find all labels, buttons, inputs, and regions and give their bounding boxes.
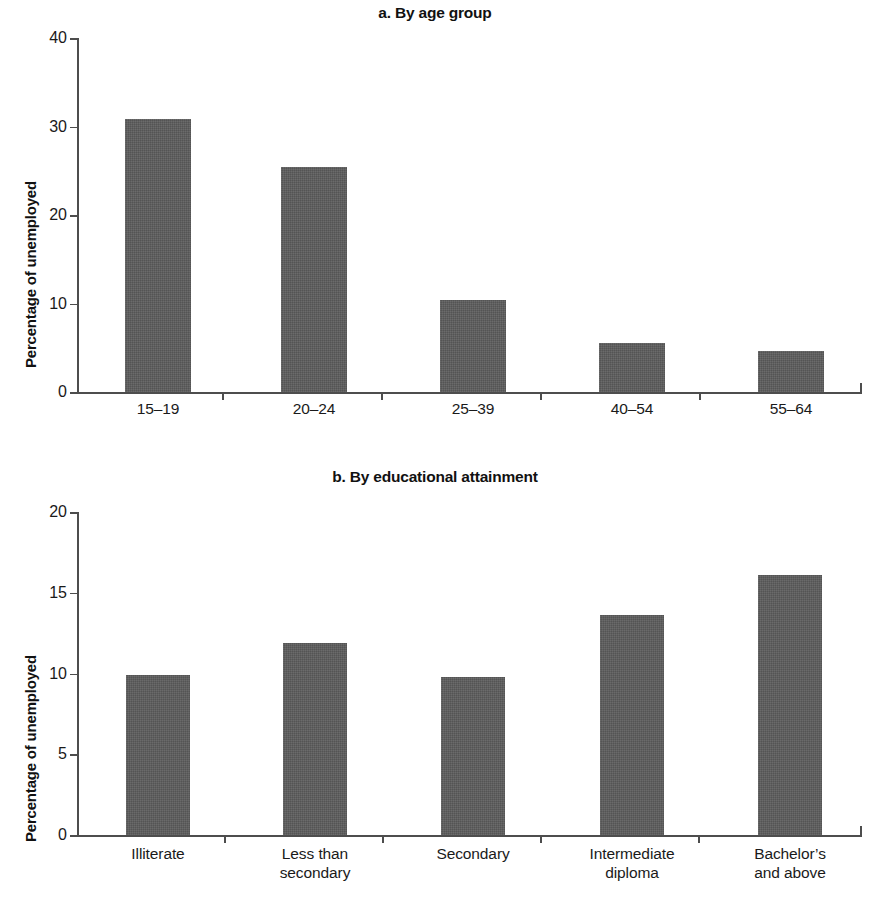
bar xyxy=(440,300,506,392)
panel-a-title: a. By age group xyxy=(0,4,870,22)
y-tick-label: 0 xyxy=(25,826,67,844)
x-tick-label-line: Intermediate xyxy=(555,845,710,864)
y-axis-top-cap xyxy=(70,512,77,514)
y-tick-label: 20 xyxy=(25,503,67,521)
x-tick-label-line: 20–24 xyxy=(239,400,389,419)
y-tick-mark xyxy=(70,835,77,837)
x-tick-mark xyxy=(381,392,383,400)
x-tick-label: 20–24 xyxy=(239,400,389,419)
x-tick-label: 15–19 xyxy=(83,400,233,419)
x-tick-label-line: secondary xyxy=(238,864,393,883)
y-tick-label: 0 xyxy=(25,383,67,401)
bar xyxy=(758,351,824,392)
y-axis-top-cap xyxy=(70,38,77,40)
x-tick-label: Bachelor’sand above xyxy=(713,845,868,883)
y-tick-mark xyxy=(70,215,77,217)
x-tick-label-line: 55–64 xyxy=(716,400,866,419)
y-tick-label: 30 xyxy=(25,118,67,136)
x-tick-label: Secondary xyxy=(396,845,551,864)
x-tick-label-line: 40–54 xyxy=(557,400,707,419)
chart-panel-b: b. By educational attainment Percentage … xyxy=(0,450,870,898)
x-tick-label-line: Illiterate xyxy=(81,845,236,864)
x-axis-end-cap xyxy=(860,826,862,835)
x-tick-mark xyxy=(540,392,542,400)
y-tick-mark xyxy=(70,674,77,676)
x-axis-line xyxy=(77,392,862,394)
y-tick-mark xyxy=(70,304,77,306)
x-axis-line xyxy=(77,835,862,837)
x-tick-label-line: Bachelor’s xyxy=(713,845,868,864)
x-tick-label-line: and above xyxy=(713,864,868,883)
x-tick-mark xyxy=(224,835,226,843)
y-tick-mark xyxy=(70,392,77,394)
x-tick-mark xyxy=(382,835,384,843)
y-tick-label: 10 xyxy=(25,295,67,313)
x-tick-label: Intermediatediploma xyxy=(555,845,710,883)
x-tick-label-line: diploma xyxy=(555,864,710,883)
bar xyxy=(599,343,665,392)
x-tick-mark xyxy=(698,835,700,843)
y-tick-label: 5 xyxy=(25,745,67,763)
y-tick-mark xyxy=(70,127,77,129)
x-axis-end-cap xyxy=(860,383,862,392)
y-tick-mark xyxy=(70,754,77,756)
y-tick-label: 40 xyxy=(25,29,67,47)
bar xyxy=(758,575,822,835)
bar xyxy=(125,119,191,392)
bar xyxy=(600,615,664,835)
x-tick-mark xyxy=(222,392,224,400)
x-tick-mark xyxy=(699,392,701,400)
bar xyxy=(281,167,347,392)
x-tick-label-line: 15–19 xyxy=(83,400,233,419)
y-tick-label: 15 xyxy=(25,584,67,602)
y-tick-label: 10 xyxy=(25,665,67,683)
x-tick-label: 40–54 xyxy=(557,400,707,419)
x-tick-label-line: 25–39 xyxy=(398,400,548,419)
bar xyxy=(441,677,505,835)
y-axis-line xyxy=(77,512,79,837)
chart-panel-a: a. By age group Percentage of unemployed… xyxy=(0,0,870,450)
y-axis-line xyxy=(77,38,79,394)
y-tick-label: 20 xyxy=(25,206,67,224)
y-tick-mark xyxy=(70,593,77,595)
panel-b-title: b. By educational attainment xyxy=(0,468,870,486)
x-tick-label: 25–39 xyxy=(398,400,548,419)
x-tick-label-line: Less than xyxy=(238,845,393,864)
x-tick-label: Illiterate xyxy=(81,845,236,864)
x-tick-label: Less thansecondary xyxy=(238,845,393,883)
x-tick-mark xyxy=(540,835,542,843)
bar xyxy=(283,643,347,835)
x-tick-label: 55–64 xyxy=(716,400,866,419)
x-tick-label-line: Secondary xyxy=(396,845,551,864)
bar xyxy=(126,675,190,835)
